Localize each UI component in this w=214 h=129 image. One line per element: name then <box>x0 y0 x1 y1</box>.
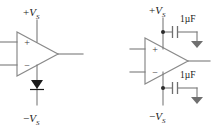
right-negative-supply-label: −VS <box>149 110 166 125</box>
diode-triangle-icon <box>31 80 43 89</box>
top-capacitor-value-label: 1µF <box>180 14 196 24</box>
right-negative-supply-subscript: S <box>162 117 166 125</box>
left-inverting-pin-label: − <box>24 60 30 71</box>
left-circuit: + − +VS −VS <box>0 6 83 127</box>
right-positive-supply-subscript: S <box>162 11 166 19</box>
left-positive-supply-label: +VS <box>23 6 40 21</box>
left-positive-supply-subscript: S <box>36 13 40 21</box>
ground-top-icon <box>191 41 203 48</box>
bottom-capacitor-value-label: 1µF <box>180 70 196 80</box>
right-inverting-pin-label: − <box>152 67 158 78</box>
right-circuit: + − +VS −VS 1µF 1µF <box>130 4 210 125</box>
ground-bottom-icon <box>191 97 203 104</box>
left-noninverting-pin-label: + <box>24 37 30 48</box>
bottom-supply-node-dot <box>161 86 165 90</box>
top-supply-node-dot <box>161 30 165 34</box>
circuit-diagram-canvas: + − +VS −VS <box>0 0 214 129</box>
right-positive-supply-label: +VS <box>149 4 166 19</box>
right-noninverting-pin-label: + <box>152 44 158 55</box>
left-negative-supply-subscript: S <box>36 119 40 127</box>
left-negative-supply-label: −VS <box>23 112 40 127</box>
circuit-figure: + − +VS −VS <box>0 0 214 129</box>
